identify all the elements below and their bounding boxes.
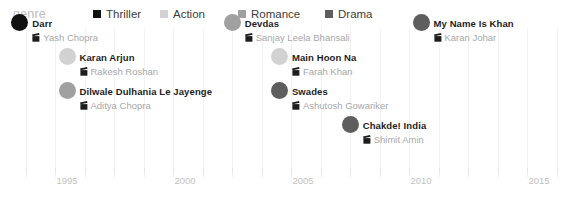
film-entry[interactable]: My Name Is KhanKaran Johar bbox=[413, 13, 514, 43]
film-entry[interactable]: DarrYash Chopra bbox=[11, 13, 98, 43]
axis-tick-label: 2015 bbox=[528, 175, 549, 186]
film-genre-dot bbox=[342, 116, 359, 133]
axis-tick-mark bbox=[26, 168, 27, 173]
axis-tick-mark bbox=[557, 168, 558, 173]
film-director: Karan Johar bbox=[445, 32, 497, 43]
film-director: Shimit Amin bbox=[374, 134, 424, 145]
legend-item-action[interactable]: Action bbox=[160, 8, 205, 20]
film-director-row: Shimit Amin bbox=[363, 134, 427, 145]
film-title: Swades bbox=[292, 86, 328, 97]
axis-tick-mark bbox=[55, 168, 56, 173]
film-director-row: Farah Khan bbox=[292, 66, 357, 77]
gridline bbox=[409, 28, 410, 178]
axis-tick-mark bbox=[203, 168, 204, 173]
film-entry[interactable]: DevdasSanjay Leela Bhansali bbox=[224, 13, 350, 43]
gridline bbox=[527, 28, 528, 178]
clapperboard-icon bbox=[292, 101, 300, 110]
clapperboard-icon bbox=[363, 135, 371, 144]
axis-tick-mark bbox=[232, 168, 233, 173]
clapperboard-icon bbox=[292, 67, 300, 76]
axis-tick-mark bbox=[468, 168, 469, 173]
film-title: Karan Arjun bbox=[80, 52, 135, 63]
clapperboard-icon bbox=[434, 33, 442, 42]
timeline-chart: genre ThrillerActionRomanceDrama 1995200… bbox=[0, 0, 569, 203]
film-text: SwadesAshutosh Gowariker bbox=[292, 81, 389, 111]
film-genre-dot bbox=[11, 14, 28, 31]
film-title: My Name Is Khan bbox=[434, 18, 514, 29]
axis-tick-mark bbox=[380, 168, 381, 173]
film-title: Darr bbox=[32, 18, 52, 29]
film-text: DarrYash Chopra bbox=[32, 13, 98, 43]
film-director: Sanjay Leela Bhansali bbox=[256, 32, 350, 43]
film-director: Farah Khan bbox=[303, 66, 353, 77]
legend-item-label: Thriller bbox=[106, 8, 141, 20]
film-text: Dilwale Dulhania Le JayengeAditya Chopra bbox=[80, 81, 213, 111]
film-text: Karan ArjunRakesh Roshan bbox=[80, 47, 159, 77]
film-director-row: Karan Johar bbox=[434, 32, 514, 43]
gridline bbox=[557, 28, 558, 178]
axis-tick-mark bbox=[291, 168, 292, 173]
film-title: Chakde! India bbox=[363, 120, 427, 131]
legend-item-label: Action bbox=[173, 8, 205, 20]
film-director: Ashutosh Gowariker bbox=[303, 100, 389, 111]
axis-tick-label: 1995 bbox=[56, 175, 77, 186]
axis-tick-mark bbox=[114, 168, 115, 173]
film-director: Yash Chopra bbox=[43, 32, 98, 43]
gridline bbox=[55, 28, 56, 178]
film-entry[interactable]: SwadesAshutosh Gowariker bbox=[271, 81, 389, 111]
film-text: My Name Is KhanKaran Johar bbox=[434, 13, 514, 43]
axis-tick-mark bbox=[321, 168, 322, 173]
film-text: DevdasSanjay Leela Bhansali bbox=[245, 13, 350, 43]
gridline bbox=[498, 28, 499, 178]
axis-tick-mark bbox=[350, 168, 351, 173]
gridline bbox=[232, 28, 233, 178]
axis-tick-mark bbox=[527, 168, 528, 173]
axis-tick-mark bbox=[85, 168, 86, 173]
film-entry[interactable]: Chakde! IndiaShimit Amin bbox=[342, 115, 427, 145]
gridline bbox=[439, 28, 440, 178]
clapperboard-icon bbox=[32, 33, 40, 42]
axis-tick-mark bbox=[498, 168, 499, 173]
axis-tick-mark bbox=[409, 168, 410, 173]
film-genre-dot bbox=[271, 48, 288, 65]
film-director: Rakesh Roshan bbox=[91, 66, 159, 77]
film-genre-dot bbox=[413, 14, 430, 31]
x-axis: 19952000200520102015 bbox=[0, 168, 569, 203]
film-director-row: Sanjay Leela Bhansali bbox=[245, 32, 350, 43]
axis-tick-mark bbox=[173, 168, 174, 173]
gridline bbox=[26, 28, 27, 178]
film-title: Devdas bbox=[245, 18, 279, 29]
axis-tick-label: 2005 bbox=[292, 175, 313, 186]
film-genre-dot bbox=[224, 14, 241, 31]
film-director: Aditya Chopra bbox=[91, 100, 151, 111]
film-title: Dilwale Dulhania Le Jayenge bbox=[80, 86, 213, 97]
film-director-row: Rakesh Roshan bbox=[80, 66, 159, 77]
film-genre-dot bbox=[59, 82, 76, 99]
film-genre-dot bbox=[59, 48, 76, 65]
clapperboard-icon bbox=[80, 101, 88, 110]
film-entry[interactable]: Dilwale Dulhania Le JayengeAditya Chopra bbox=[59, 81, 213, 111]
axis-tick-label: 2010 bbox=[410, 175, 431, 186]
film-text: Chakde! IndiaShimit Amin bbox=[363, 115, 427, 145]
film-director-row: Aditya Chopra bbox=[80, 100, 213, 111]
film-text: Main Hoon NaFarah Khan bbox=[292, 47, 357, 77]
film-title: Main Hoon Na bbox=[292, 52, 357, 63]
axis-tick-label: 2000 bbox=[174, 175, 195, 186]
legend-item-thriller[interactable]: Thriller bbox=[93, 8, 141, 20]
film-entry[interactable]: Karan ArjunRakesh Roshan bbox=[59, 47, 159, 77]
clapperboard-icon bbox=[80, 67, 88, 76]
film-genre-dot bbox=[271, 82, 288, 99]
film-entry[interactable]: Main Hoon NaFarah Khan bbox=[271, 47, 357, 77]
axis-tick-mark bbox=[262, 168, 263, 173]
film-director-row: Ashutosh Gowariker bbox=[292, 100, 389, 111]
legend-swatch-action-icon bbox=[160, 10, 168, 18]
gridline bbox=[468, 28, 469, 178]
axis-tick-mark bbox=[439, 168, 440, 173]
film-director-row: Yash Chopra bbox=[32, 32, 98, 43]
axis-tick-mark bbox=[144, 168, 145, 173]
gridline bbox=[262, 28, 263, 178]
clapperboard-icon bbox=[245, 33, 253, 42]
